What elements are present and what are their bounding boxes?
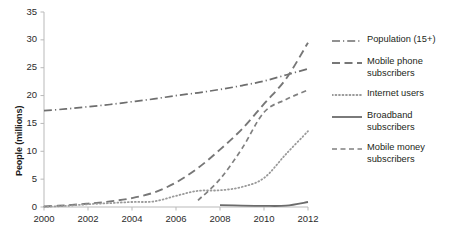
legend-item-label: Mobile phone subscribers: [367, 56, 423, 79]
legend-item[interactable]: Mobile phone subscribers: [332, 56, 450, 79]
chart-container: People (millions) 05101520253035 2000200…: [0, 0, 453, 240]
legend-swatch-dotted-icon: [332, 89, 362, 101]
series-line-internet-users: [44, 131, 308, 206]
legend-item-label: Mobile money subscribers: [367, 142, 425, 165]
series-line-broadband-subscribers: [220, 202, 308, 206]
legend-swatch-long-dash-icon: [332, 57, 362, 69]
legend-swatch-dash-dot-icon: [332, 35, 362, 47]
legend-item[interactable]: Internet users: [332, 88, 450, 101]
legend-item-label: Internet users: [367, 88, 424, 100]
legend-item-label: Broadband subscribers: [367, 110, 415, 133]
series-line-population-15: [44, 69, 308, 111]
legend-item[interactable]: Population (15+): [332, 34, 450, 47]
chart-legend: Population (15+)Mobile phone subscribers…: [332, 34, 450, 174]
legend-item[interactable]: Broadband subscribers: [332, 110, 450, 133]
axis-spine: [44, 12, 308, 207]
series-line-mobile-phone-subscribers: [44, 43, 308, 207]
legend-swatch-solid-icon: [332, 111, 362, 123]
legend-item[interactable]: Mobile money subscribers: [332, 142, 450, 165]
legend-item-label: Population (15+): [367, 34, 435, 46]
legend-swatch-dash-icon: [332, 143, 362, 155]
